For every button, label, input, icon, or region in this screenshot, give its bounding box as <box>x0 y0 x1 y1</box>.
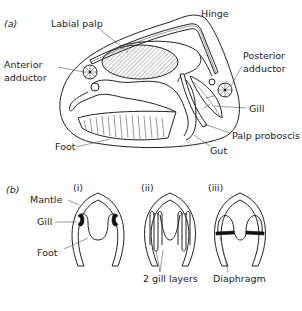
foot-i <box>80 214 116 240</box>
foot-lobe <box>69 92 176 112</box>
labial-palp <box>102 45 178 79</box>
label-mantle: Mantle <box>30 194 62 205</box>
panel-a-label: (a) <box>4 18 17 29</box>
subpanel-i-label: (i) <box>73 182 83 193</box>
panel-b-label: (b) <box>6 184 19 195</box>
subpanel-i: (i) Mantle Gill Foot <box>30 182 124 266</box>
label-labial-palp: Labial palp <box>51 18 103 29</box>
mantle-ii <box>145 193 196 266</box>
label-diaphragm: Diaphragm <box>213 273 266 284</box>
label-posterior-adductor-line2: adductor <box>243 63 286 74</box>
leader-lines-iii <box>220 236 228 272</box>
body-outline <box>92 80 188 136</box>
bivalve-anatomy-diagram: (a) <box>0 0 302 311</box>
gill-i-right <box>112 214 118 226</box>
palp-proboscis <box>180 74 207 127</box>
mantle-iii <box>215 193 266 266</box>
label-anterior-adductor-line2: adductor <box>4 72 47 83</box>
label-gill: Gill <box>249 103 264 114</box>
posterior-adductor <box>218 83 232 97</box>
subpanel-iii-label: (iii) <box>208 182 223 193</box>
label-posterior-adductor-line1: Posterior <box>243 50 285 61</box>
foot-cilia <box>84 115 164 139</box>
diaphragm-left <box>216 231 234 235</box>
panel-a: (a) <box>4 8 300 156</box>
foot-ii <box>160 215 180 240</box>
mantle-i <box>72 193 124 266</box>
posterior-organ <box>209 79 215 85</box>
subpanel-iii: (iii) Diaphragm <box>208 182 266 284</box>
subpanel-ii: (ii) 2 gill layers <box>141 182 198 284</box>
subpanel-ii-label: (ii) <box>141 182 154 193</box>
diaphragm-right <box>246 231 264 235</box>
panel-b: (b) (i) Mantle Gill Foot (ii) <box>6 182 266 284</box>
label-hinge: Hinge <box>201 8 229 19</box>
gill-i-left <box>78 214 84 226</box>
foot-iii <box>218 216 262 241</box>
label-gut: Gut <box>210 145 227 156</box>
label-anterior-adductor-line1: Anterior <box>4 59 42 70</box>
label-palp-proboscis: Palp proboscis <box>232 130 300 141</box>
label-gill-b: Gill <box>37 216 52 227</box>
label-foot-b: Foot <box>37 247 58 258</box>
anterior-organ <box>91 83 99 91</box>
label-gill-layers: 2 gill layers <box>143 273 198 284</box>
anterior-adductor <box>83 65 97 79</box>
label-foot: Foot <box>55 141 76 152</box>
leader-lines-ii <box>156 250 163 272</box>
